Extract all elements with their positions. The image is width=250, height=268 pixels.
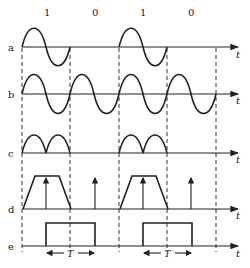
row-d: d t <box>8 176 241 221</box>
row-b: b t <box>8 75 241 114</box>
row-e: e t T T <box>8 223 241 259</box>
row-label-d: d <box>8 204 15 215</box>
rectified-burst-2 <box>119 135 167 153</box>
bit-labels: 1 0 1 0 <box>44 7 194 18</box>
axis-t-a: t <box>236 49 241 60</box>
period-label-2: T <box>164 248 172 259</box>
rectified-burst-1 <box>22 135 70 153</box>
axis-t-e: t <box>236 248 241 259</box>
row-label-e: e <box>8 241 14 252</box>
row-label-b: b <box>8 89 14 100</box>
waveform-diagram: 1 0 1 0 a t b t c t d t <box>0 0 250 268</box>
axis-t-c: t <box>236 154 241 165</box>
axis-t-b: t <box>236 95 241 106</box>
row-a: a t <box>8 28 241 66</box>
bit-label-2: 0 <box>92 7 98 18</box>
row-c: c t <box>8 135 241 165</box>
axis-t-d: t <box>236 210 241 221</box>
trapezoid-envelope-1 <box>23 176 71 209</box>
trapezoid-envelope-2 <box>120 176 168 209</box>
period-label-1: T <box>67 248 75 259</box>
row-label-a: a <box>8 42 14 53</box>
row-label-c: c <box>8 148 14 159</box>
bit-label-4: 0 <box>188 7 194 18</box>
bit-label-1: 1 <box>44 7 50 18</box>
bit-label-3: 1 <box>140 7 146 18</box>
